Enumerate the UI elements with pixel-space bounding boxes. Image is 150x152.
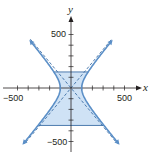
hyperbola-right-branch	[82, 41, 119, 144]
y-tick-label-500: 500	[51, 29, 66, 39]
y-axis-arrow-icon	[69, 16, 74, 22]
x-axis-label: x	[142, 81, 148, 93]
y-axis-label: y	[67, 3, 73, 15]
x-tick-label-neg500: −500	[3, 93, 23, 103]
y-tick-label-neg500: −500	[47, 137, 67, 147]
x-tick-label-500: 500	[117, 93, 132, 103]
asymptote-negative	[30, 39, 116, 142]
hyperbola-left-branch	[23, 41, 60, 144]
asymptote-positive	[26, 39, 112, 142]
x-axis-arrow-icon	[136, 86, 142, 91]
hyperbola-plot: −500 500 500 −500 x y	[0, 0, 150, 152]
